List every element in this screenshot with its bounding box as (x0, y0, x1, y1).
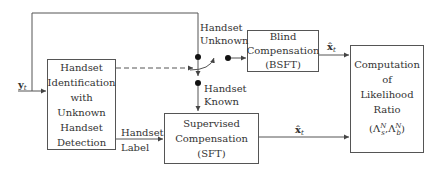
supervised-output-label: x̂t (295, 123, 304, 140)
block-line: Supervised (183, 116, 240, 131)
block-line: Likelihood (360, 87, 413, 102)
block-line: Compensation (247, 44, 320, 58)
block-line: (BSFT) (265, 58, 301, 72)
supervised-compensation-block: Supervised Compensation (SFT) (164, 113, 259, 164)
handset-label-label: Handset Label (121, 125, 164, 155)
block-line: Ratio (374, 102, 401, 117)
block-line: Identification (48, 75, 116, 90)
blind-compensation-block: Blind Compensation (BSFT) (247, 30, 319, 72)
likelihood-ratio-block: Computation of Likelihood Ratio (ΛNs,ΛNb… (350, 45, 424, 153)
switch-lever (190, 58, 214, 70)
blind-output-label: x̂t (327, 40, 336, 57)
switch-known-node (195, 80, 201, 86)
block-line: Unknown (57, 105, 105, 120)
switch-unknown-node (225, 55, 231, 61)
block-line: (SFT) (197, 146, 225, 161)
handset-identification-block: Handset Identification with Unknown Hand… (47, 59, 116, 150)
block-line: Handset (60, 60, 103, 75)
block-line: of (382, 72, 392, 87)
block-line: Detection (57, 135, 106, 150)
block-line: Blind (270, 30, 297, 44)
handset-unknown-label: Handset Unknown (200, 21, 248, 47)
switch-pivot-node (195, 54, 201, 60)
input-signal-label: yt (18, 78, 27, 95)
block-line: Computation (354, 57, 420, 72)
block-line: with (70, 90, 92, 105)
likelihood-formula: (ΛNs,ΛNb) (369, 119, 405, 141)
block-line: Compensation (175, 131, 248, 146)
handset-known-label: Handset Known (204, 82, 247, 108)
block-line: Handset (60, 120, 103, 135)
